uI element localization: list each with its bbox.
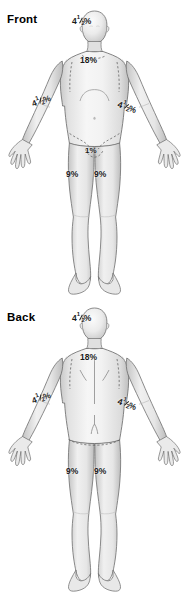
front-right-hand (157, 140, 180, 169)
back-head-percentage: 412% (72, 313, 91, 323)
back-left-leg (68, 440, 94, 582)
back-right-leg-percentage: 9% (94, 467, 106, 476)
front-trunk-percentage: 18% (80, 56, 97, 65)
front-right-leg (95, 143, 121, 285)
front-view-panel: Front (0, 0, 189, 300)
back-right-hand (157, 437, 180, 466)
front-genitalia-percentage: 1% (85, 147, 97, 155)
front-left-leg-percentage: 9% (66, 170, 78, 179)
front-right-leg-percentage: 9% (94, 170, 106, 179)
back-view-panel: Back (0, 300, 189, 607)
back-left-leg-percentage: 9% (66, 467, 78, 476)
front-left-leg (68, 143, 94, 285)
back-left-hand (9, 437, 32, 466)
front-navel (93, 117, 95, 120)
back-right-leg (95, 440, 121, 582)
front-right-arm (126, 61, 166, 144)
back-right-arm (126, 358, 166, 441)
back-trunk-percentage: 18% (80, 353, 97, 362)
front-head-percentage: 412% (72, 16, 91, 26)
back-body-figure (0, 300, 189, 607)
front-left-hand (9, 140, 32, 169)
burn-assessment-chart: Front (0, 0, 189, 607)
